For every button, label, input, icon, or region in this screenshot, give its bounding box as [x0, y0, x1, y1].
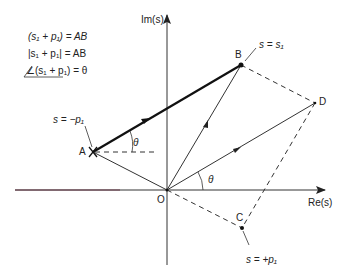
imaginary-axis-label: Im(s) [141, 14, 164, 25]
leader-A [85, 126, 92, 147]
point-B-label: B [235, 49, 242, 60]
point-A-annotation: s = −p₁ [53, 114, 84, 125]
point-C-marker [240, 226, 244, 230]
angle-label-A: θ [133, 137, 138, 148]
point-C-label: C [236, 212, 243, 223]
origin-marker [166, 189, 169, 192]
dashed-BD [241, 65, 315, 103]
vector-OB [167, 65, 241, 190]
leader-C [243, 231, 249, 245]
s-plane-diagram [0, 0, 349, 280]
equation-magnitude: |s₁ + p₁| = AB [28, 48, 86, 59]
angle-label-O: θ [208, 174, 213, 185]
equation-vector: (s₁ + p₁) = AB [28, 31, 87, 42]
point-B-annotation: s = s₁ [259, 39, 284, 50]
point-A-label: A [79, 146, 86, 157]
point-C-annotation: s = +p₁ [246, 254, 277, 265]
origin-label: O [157, 194, 165, 205]
point-D-marker [314, 102, 317, 105]
arrow-OB-icon [203, 120, 208, 128]
point-B-marker [239, 63, 244, 68]
equation-angle: ∠(s₁ + p₁) = θ [26, 65, 87, 76]
point-D-label: D [319, 96, 326, 107]
segment-AO [93, 152, 167, 190]
angle-arc-O [198, 172, 203, 190]
vector-OD [167, 103, 315, 190]
leader-B [245, 48, 256, 61]
real-axis-label: Re(s) [308, 197, 332, 208]
dashed-DC [242, 103, 315, 228]
arrow-OD-icon [233, 147, 241, 153]
dashed-OC [167, 190, 242, 228]
